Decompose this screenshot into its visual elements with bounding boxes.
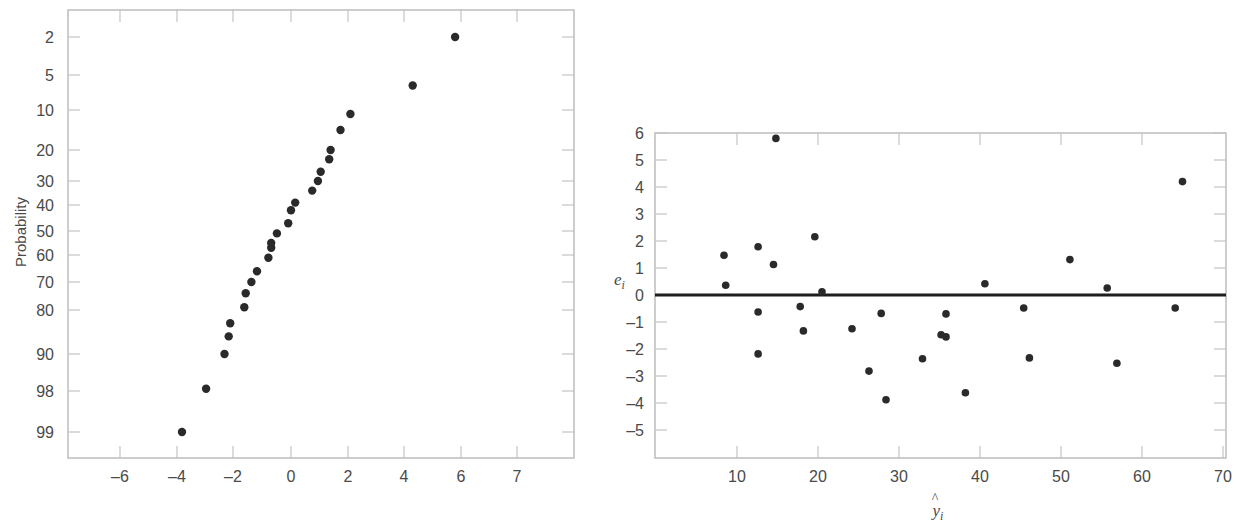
data-point [178, 428, 186, 436]
hat-accent: ^ [932, 491, 939, 506]
data-point [326, 146, 334, 154]
data-point [865, 367, 873, 375]
data-point [267, 244, 275, 252]
data-point [720, 252, 728, 260]
x-tick-label: –4 [168, 468, 186, 485]
y-tick-label: 4 [635, 179, 644, 196]
y-tick-label: 70 [36, 274, 54, 291]
x-axis: –6–4–202467 [111, 10, 521, 485]
data-point [242, 289, 250, 297]
data-point [284, 219, 292, 227]
data-point [1113, 360, 1121, 368]
y-tick-label: 6 [635, 125, 644, 142]
data-point [226, 319, 234, 327]
data-point [451, 33, 459, 41]
data-point [287, 206, 295, 214]
data-point [409, 81, 417, 89]
y-tick-label: 20 [36, 142, 54, 159]
x-tick-label: 6 [457, 468, 466, 485]
y-axis-label: Probability [12, 196, 29, 267]
data-point [942, 333, 950, 341]
data-point [264, 254, 272, 262]
data-point [336, 126, 344, 134]
y-tick-label: 90 [36, 346, 54, 363]
data-point [1171, 304, 1179, 312]
x-tick-label: –2 [224, 468, 242, 485]
data-points [178, 33, 460, 436]
data-point [317, 168, 325, 176]
data-point [882, 396, 890, 404]
data-point [273, 229, 281, 237]
data-point [1020, 304, 1028, 312]
data-point [770, 261, 778, 269]
y-tick-label: 1 [635, 260, 644, 277]
plot-frame [68, 10, 574, 458]
residuals-vs-fitted-canvas: 6543210–1–2–3–4–5 10203040506070 ei yi ^ [600, 0, 1236, 526]
x-tick-label: 20 [809, 468, 827, 485]
data-point [346, 110, 354, 118]
data-point [818, 288, 826, 296]
data-point [754, 243, 762, 251]
data-point [754, 308, 762, 316]
y-tick-label: 98 [36, 383, 54, 400]
y-axis-label: ei [614, 270, 625, 292]
x-tick-label: 40 [971, 468, 989, 485]
y-axis: 251020304050607080909899 [36, 29, 574, 441]
x-axis: 10203040506070 [728, 133, 1232, 485]
x-tick-label: 50 [1052, 468, 1070, 485]
y-tick-label: 10 [36, 102, 54, 119]
y-tick-label: 60 [36, 247, 54, 264]
data-points [720, 135, 1186, 404]
y-tick-label: 40 [36, 197, 54, 214]
x-tick-label: 30 [890, 468, 908, 485]
data-point [247, 278, 255, 286]
y-tick-label: 30 [36, 173, 54, 190]
data-point [722, 282, 730, 290]
x-tick-label: 2 [344, 468, 353, 485]
x-tick-label: –6 [111, 468, 129, 485]
y-tick-label: 99 [36, 424, 54, 441]
y-tick-label: 50 [36, 223, 54, 240]
y-tick-label: –2 [626, 341, 644, 358]
data-point [225, 332, 233, 340]
y-tick-label: 3 [635, 206, 644, 223]
data-point [291, 198, 299, 206]
y-tick-label: 0 [635, 287, 644, 304]
y-tick-label: 2 [635, 233, 644, 250]
data-point [314, 177, 322, 185]
data-point [877, 310, 885, 318]
data-point [1066, 256, 1074, 264]
data-point [981, 280, 989, 288]
y-tick-label: –3 [626, 368, 644, 385]
data-point [754, 350, 762, 358]
y-axis: 6543210–1–2–3–4–5 [626, 125, 1226, 439]
data-point [325, 155, 333, 163]
data-point [811, 233, 819, 241]
x-tick-label: 0 [287, 468, 296, 485]
data-point [962, 389, 970, 397]
y-tick-label: 5 [635, 152, 644, 169]
data-point [800, 327, 808, 335]
data-point [848, 325, 856, 333]
residuals-vs-fitted-plot: 6543210–1–2–3–4–5 10203040506070 ei yi ^ [600, 0, 1236, 526]
y-tick-label: 80 [36, 302, 54, 319]
data-point [220, 350, 228, 358]
x-tick-label: 7 [513, 468, 522, 485]
y-tick-label: 5 [45, 67, 54, 84]
x-tick-label: 60 [1133, 468, 1151, 485]
normal-probability-plot: 251020304050607080909899 –6–4–202467 Pro… [0, 0, 600, 526]
y-tick-label: –4 [626, 395, 644, 412]
data-point [919, 355, 927, 363]
normal-probability-plot-canvas: 251020304050607080909899 –6–4–202467 Pro… [0, 0, 600, 526]
data-point [308, 186, 316, 194]
data-point [202, 385, 210, 393]
data-point [772, 135, 780, 143]
data-point [1026, 354, 1034, 362]
data-point [1179, 178, 1187, 186]
data-point [240, 303, 248, 311]
y-tick-label: –1 [626, 314, 644, 331]
x-tick-label: 70 [1214, 468, 1232, 485]
x-tick-label: 10 [728, 468, 746, 485]
y-tick-label: 2 [45, 29, 54, 46]
y-tick-label: –5 [626, 422, 644, 439]
